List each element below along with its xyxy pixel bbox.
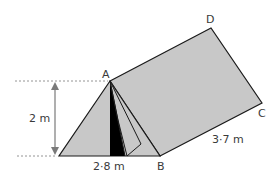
arrow-down-icon — [51, 147, 59, 155]
point-d-label: D — [206, 13, 214, 26]
arrow-up-icon — [51, 82, 59, 90]
height-label: 2 m — [29, 112, 50, 125]
length-label: 3·7 m — [212, 133, 244, 146]
point-a-label: A — [102, 68, 110, 81]
point-b-label: B — [157, 160, 165, 173]
tent-diagram: A B C D 2 m 2·8 m 3·7 m — [0, 0, 278, 179]
base-label: 2·8 m — [93, 160, 125, 173]
point-c-label: C — [258, 107, 266, 120]
